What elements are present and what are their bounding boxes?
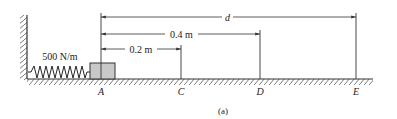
dimension-0-4m-label: 0.4 m <box>170 29 193 40</box>
point-label-A: A <box>97 86 105 97</box>
spring-constant-label: 500 N/m <box>42 51 78 62</box>
ground <box>27 79 373 85</box>
point-label-C: C <box>178 86 185 97</box>
figure-caption: (a) <box>218 106 228 116</box>
spring <box>28 66 90 78</box>
spring-block-diagram: d 0.4 m 0.2 m 500 N/m A C D E (a) <box>0 0 397 119</box>
wall <box>20 15 27 80</box>
dimension-0-2m: 0.2 m <box>101 44 181 55</box>
point-label-D: D <box>255 86 264 97</box>
dimension-d-label: d <box>225 12 231 23</box>
dimension-0-4m: 0.4 m <box>101 29 260 40</box>
block <box>90 63 115 79</box>
dimension-0-2m-label: 0.2 m <box>130 44 153 55</box>
dimension-d: d <box>101 12 356 23</box>
point-label-E: E <box>352 86 359 97</box>
